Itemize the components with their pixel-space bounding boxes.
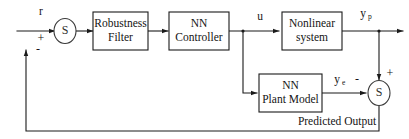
block-nonlinear-system-line2: system bbox=[296, 31, 328, 44]
signal-label-error: y e bbox=[334, 73, 346, 87]
junction-dot-u-branch bbox=[241, 29, 244, 32]
signal-label-reference: r bbox=[39, 5, 43, 17]
sign-right-sum-plus: + bbox=[387, 66, 394, 80]
signal-label-control: u bbox=[257, 10, 263, 22]
block-robustness-filter-line2: Filter bbox=[108, 31, 133, 43]
sign-left-sum-minus: - bbox=[36, 42, 40, 56]
sign-right-sum-minus: - bbox=[355, 72, 359, 86]
summing-junction-right-symbol: S bbox=[376, 85, 383, 99]
signal-label-plant-output: y p bbox=[360, 7, 372, 21]
annotation-predicted-output: Predicted Output bbox=[298, 115, 377, 128]
wire-u-branch-to-plant-model bbox=[243, 31, 257, 93]
block-nn-plant-model-line1: NN bbox=[282, 79, 299, 91]
block-diagram: Robustness Filter NN Controller Nonlinea… bbox=[0, 0, 409, 139]
signal-label-error-base: y bbox=[334, 73, 340, 86]
signal-label-plant-output-base: y bbox=[360, 7, 366, 20]
summing-junction-left-symbol: S bbox=[62, 23, 69, 37]
junction-dot-yp-branch bbox=[377, 29, 380, 32]
signal-label-error-subscript: e bbox=[342, 78, 346, 87]
block-robustness-filter-line1: Robustness bbox=[94, 17, 147, 29]
block-diagram-canvas: Robustness Filter NN Controller Nonlinea… bbox=[0, 0, 409, 139]
block-nn-controller-line2: Controller bbox=[175, 31, 222, 43]
block-nn-plant-model-line2: Plant Model bbox=[262, 93, 319, 105]
block-nonlinear-system-line1: Nonlinear bbox=[289, 17, 335, 29]
signal-label-plant-output-subscript: p bbox=[368, 12, 372, 21]
block-nn-controller-line1: NN bbox=[191, 17, 208, 29]
